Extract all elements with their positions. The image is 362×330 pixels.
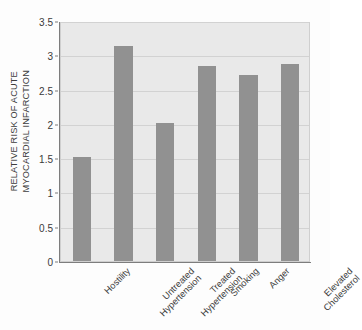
y-axis-tick-label: 1 — [47, 188, 53, 199]
y-axis-line — [59, 22, 60, 263]
bar[interactable] — [198, 66, 216, 261]
y-axis-tick-labels: 00.511.522.533.5 — [0, 0, 58, 330]
gridline — [61, 56, 309, 57]
y-axis-tick-label: 3 — [47, 51, 53, 62]
y-axis-tick-mark — [55, 124, 58, 125]
x-axis-label-line: Anger — [267, 266, 292, 291]
y-axis-tick-label: 1.5 — [39, 154, 53, 165]
x-axis-category-label[interactable]: Anger — [267, 266, 292, 291]
y-axis-tick-mark — [55, 90, 58, 91]
bar[interactable] — [156, 123, 174, 262]
gridline — [61, 228, 309, 229]
y-axis-tick-label: 0.5 — [39, 222, 53, 233]
x-axis-category-label[interactable]: Hostility — [102, 266, 132, 296]
y-axis-tick-mark — [55, 22, 58, 23]
gridline — [61, 91, 309, 92]
gridline — [61, 193, 309, 194]
y-axis-tick-mark — [55, 193, 58, 194]
bar[interactable] — [239, 75, 257, 262]
plot-area — [60, 22, 310, 262]
y-axis-tick-label: 2.5 — [39, 85, 53, 96]
y-axis-tick-label: 0 — [47, 257, 53, 268]
y-axis-tick-label: 3.5 — [39, 17, 53, 28]
x-axis-category-label[interactable]: ElevatedCholesterol — [315, 266, 362, 314]
y-axis-tick-mark — [55, 56, 58, 57]
gridline — [61, 159, 309, 160]
y-axis-tick-mark — [55, 227, 58, 228]
gridline — [61, 22, 309, 23]
x-axis-label-line: Hostility — [102, 266, 132, 296]
gridline — [61, 125, 309, 126]
bar[interactable] — [114, 46, 132, 261]
bar[interactable] — [281, 64, 299, 261]
y-axis-tick-mark — [55, 159, 58, 160]
y-axis-tick-mark — [55, 262, 58, 263]
x-axis-line — [59, 262, 311, 263]
x-axis-category-label[interactable]: UntreatedHypertension — [150, 266, 203, 319]
bar[interactable] — [73, 157, 91, 261]
y-axis-tick-label: 2 — [47, 119, 53, 130]
